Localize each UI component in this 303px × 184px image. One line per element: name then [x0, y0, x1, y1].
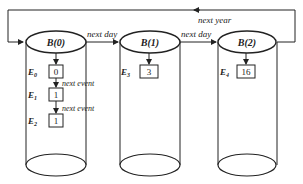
svg-text:3: 3: [147, 67, 152, 77]
event-label-e1: E1: [27, 90, 37, 101]
bucket-b0: B(0) 0 E0 next event 1 E1 next event 1 E…: [26, 31, 95, 176]
next-day-label: next day: [87, 29, 117, 39]
bucket-label: B(1): [140, 37, 159, 49]
svg-text:0: 0: [54, 67, 59, 77]
bucket-label: B(2): [237, 37, 256, 49]
svg-text:1: 1: [54, 116, 59, 126]
next-event-label: next event: [62, 79, 95, 88]
bucket-label: B(0): [46, 37, 65, 49]
event-label-e2: E2: [27, 116, 37, 127]
next-event-label: next event: [62, 104, 95, 113]
event-label-e3: E3: [120, 67, 130, 78]
bucket-b2: B(2) 16 E4: [218, 31, 277, 176]
bucket-calendar-diagram: next year B(0) 0 E0 next event 1 E1 next…: [0, 0, 303, 184]
diagram-svg: next year B(0) 0 E0 next event 1 E1 next…: [0, 0, 303, 184]
event-label-e0: E0: [27, 67, 37, 78]
next-year-label: next year: [198, 15, 232, 25]
event-label-e4: E4: [219, 67, 229, 78]
svg-text:16: 16: [242, 67, 252, 77]
svg-text:1: 1: [54, 90, 59, 100]
next-day-label: next day: [181, 29, 211, 39]
bucket-b1: B(1) 3 E3: [120, 31, 180, 176]
